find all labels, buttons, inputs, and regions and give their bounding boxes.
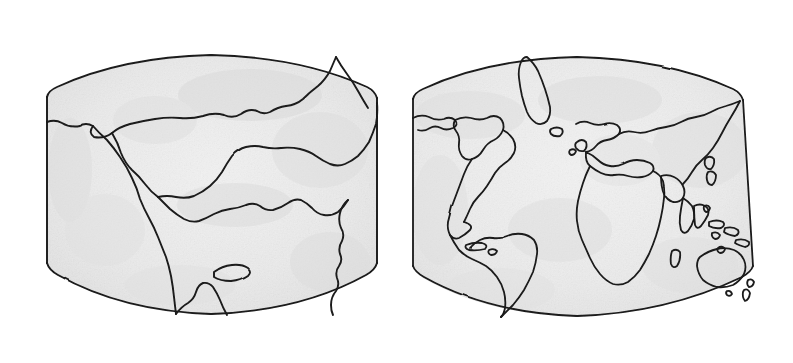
illustration-canvas: 200 million years ago Today xyxy=(0,0,793,363)
panel-pangaea xyxy=(47,55,377,315)
panel-today xyxy=(412,57,754,317)
maps-figure xyxy=(0,0,793,363)
continental-drift-drawing xyxy=(0,0,793,363)
